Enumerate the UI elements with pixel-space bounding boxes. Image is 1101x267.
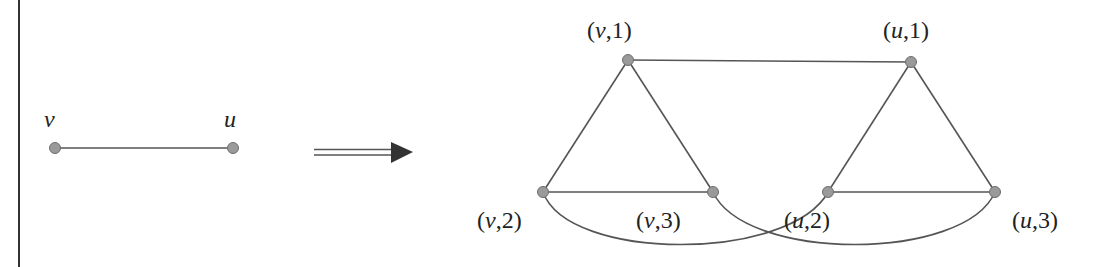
edge-v1-u1 bbox=[628, 60, 911, 62]
label-v1-name: v bbox=[595, 17, 606, 43]
edge-v1-v2 bbox=[543, 60, 628, 192]
edge-u1-u2 bbox=[828, 62, 911, 192]
label-v2-name: v bbox=[485, 207, 496, 233]
node-v1 bbox=[623, 55, 634, 66]
label-u2: (u,2) bbox=[784, 208, 830, 232]
label-u-text: u bbox=[224, 106, 236, 132]
label-u: u bbox=[224, 107, 236, 131]
label-u3: (u,3) bbox=[1012, 208, 1058, 232]
node-u bbox=[228, 143, 239, 154]
label-u1: (u,1) bbox=[883, 18, 929, 42]
label-u3-name: u bbox=[1020, 207, 1032, 233]
label-u1-name: u bbox=[891, 17, 903, 43]
label-v2: (v,2) bbox=[477, 208, 522, 232]
transform-arrow-icon bbox=[314, 142, 413, 163]
label-v1-index: 1 bbox=[612, 17, 624, 43]
label-u1-index: 1 bbox=[909, 17, 921, 43]
target-graph bbox=[538, 55, 1001, 245]
source-graph bbox=[50, 143, 239, 154]
label-u2-index: 2 bbox=[810, 207, 822, 233]
edge-u1-u3 bbox=[911, 62, 995, 192]
node-u1 bbox=[906, 57, 917, 68]
label-u3-index: 3 bbox=[1038, 207, 1050, 233]
node-u2 bbox=[823, 187, 834, 198]
node-v2 bbox=[538, 187, 549, 198]
label-v1: (v,1) bbox=[587, 18, 632, 42]
edge-v1-v3 bbox=[628, 60, 713, 192]
node-v3 bbox=[708, 187, 719, 198]
label-v3: (v,3) bbox=[636, 208, 681, 232]
label-v3-name: v bbox=[644, 207, 655, 233]
label-v2-index: 2 bbox=[502, 207, 514, 233]
label-v3-index: 3 bbox=[661, 207, 673, 233]
label-u2-name: u bbox=[792, 207, 804, 233]
label-v-text: v bbox=[44, 106, 55, 132]
label-v: v bbox=[44, 107, 55, 131]
graph-diagram bbox=[0, 0, 1101, 267]
node-v bbox=[50, 143, 61, 154]
node-u3 bbox=[990, 187, 1001, 198]
